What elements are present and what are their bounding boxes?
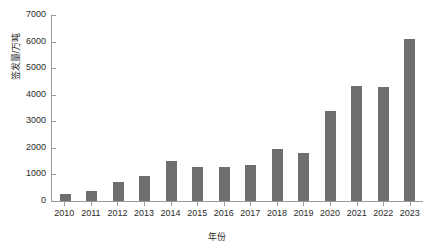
x-tick-mark xyxy=(330,202,331,206)
bar-slot xyxy=(211,15,238,201)
x-tick-mark xyxy=(117,202,118,206)
x-tick: 2012 xyxy=(104,202,131,218)
x-tick-label: 2019 xyxy=(290,208,317,218)
x-tick-label: 2010 xyxy=(51,208,78,218)
bar[interactable] xyxy=(404,39,415,201)
x-tick-mark xyxy=(197,202,198,206)
x-tick: 2010 xyxy=(51,202,78,218)
bar[interactable] xyxy=(219,167,230,201)
x-tick: 2020 xyxy=(317,202,344,218)
bar-slot xyxy=(264,15,291,201)
x-tick: 2021 xyxy=(343,202,370,218)
y-axis-title: 签发量/万吨 xyxy=(9,2,22,112)
x-tick-mark xyxy=(383,202,384,206)
bar[interactable] xyxy=(325,111,336,201)
x-tick: 2019 xyxy=(290,202,317,218)
y-tick-label: 7000 xyxy=(26,9,46,20)
x-tick-label: 2011 xyxy=(78,208,105,218)
bar-slot xyxy=(397,15,424,201)
x-tick-mark xyxy=(410,202,411,206)
bar-slot xyxy=(105,15,132,201)
x-tick: 2014 xyxy=(157,202,184,218)
bar[interactable] xyxy=(192,167,203,201)
bar-slot xyxy=(158,15,185,201)
bar-slot xyxy=(344,15,371,201)
x-tick-mark xyxy=(303,202,304,206)
x-tick: 2017 xyxy=(237,202,264,218)
x-tick-mark xyxy=(144,202,145,206)
x-tick-label: 2022 xyxy=(370,208,397,218)
x-tick-label: 2014 xyxy=(157,208,184,218)
x-tick: 2015 xyxy=(184,202,211,218)
y-tick-label: 0 xyxy=(41,195,46,206)
x-tick-label: 2013 xyxy=(131,208,158,218)
y-tick-label: 2000 xyxy=(26,142,46,153)
x-tick-label: 2012 xyxy=(104,208,131,218)
bar-slot xyxy=(370,15,397,201)
bar-slot xyxy=(317,15,344,201)
y-tick-label: 4000 xyxy=(26,89,46,100)
y-tick-label: 5000 xyxy=(26,62,46,73)
bar[interactable] xyxy=(378,87,389,201)
x-tick: 2018 xyxy=(264,202,291,218)
bar[interactable] xyxy=(166,161,177,201)
bar[interactable] xyxy=(351,86,362,201)
bar-slot xyxy=(185,15,212,201)
x-tick-mark xyxy=(357,202,358,206)
bar-chart: 签发量/万吨 01000200030004000500060007000 201… xyxy=(0,0,434,247)
bar[interactable] xyxy=(272,149,283,201)
x-tick: 2011 xyxy=(78,202,105,218)
bar[interactable] xyxy=(86,191,97,201)
y-tick-label: 6000 xyxy=(26,36,46,47)
x-tick: 2013 xyxy=(131,202,158,218)
y-tick-label: 3000 xyxy=(26,115,46,126)
bar[interactable] xyxy=(245,165,256,201)
x-tick-label: 2018 xyxy=(264,208,291,218)
x-tick-label: 2015 xyxy=(184,208,211,218)
x-tick-label: 2016 xyxy=(210,208,237,218)
bar[interactable] xyxy=(139,176,150,201)
x-tick-mark xyxy=(64,202,65,206)
x-tick-mark xyxy=(91,202,92,206)
x-tick-label: 2020 xyxy=(317,208,344,218)
x-tick-label: 2021 xyxy=(343,208,370,218)
bar[interactable] xyxy=(298,153,309,201)
x-axis-title: 年份 xyxy=(0,230,434,243)
bar[interactable] xyxy=(60,194,71,201)
x-tick-mark xyxy=(224,202,225,206)
x-tick: 2022 xyxy=(370,202,397,218)
x-axis-ticks: 2010201120122013201420152016201720182019… xyxy=(51,202,423,218)
y-tick-label: 1000 xyxy=(26,168,46,179)
bar-slot xyxy=(52,15,79,201)
x-tick-mark xyxy=(171,202,172,206)
x-tick: 2016 xyxy=(210,202,237,218)
plot-area: 01000200030004000500060007000 xyxy=(51,15,423,202)
x-tick-mark xyxy=(277,202,278,206)
x-tick-label: 2017 xyxy=(237,208,264,218)
bar-slot xyxy=(238,15,265,201)
x-tick: 2023 xyxy=(397,202,424,218)
bar-slot xyxy=(132,15,159,201)
bar[interactable] xyxy=(113,182,124,201)
x-tick-label: 2023 xyxy=(397,208,424,218)
x-tick-mark xyxy=(250,202,251,206)
bar-slot xyxy=(79,15,106,201)
bar-slot xyxy=(291,15,318,201)
bars-layer xyxy=(52,15,423,201)
